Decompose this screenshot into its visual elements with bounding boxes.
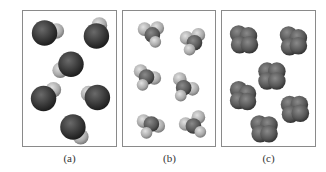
tetrahedral-molecules-illustration (123, 11, 215, 146)
panel-b (122, 10, 216, 147)
four-lobe-molecules-illustration (222, 11, 315, 146)
panel-b-label: (b) (122, 152, 217, 164)
panel-a-label: (a) (22, 152, 117, 164)
panel-c (221, 10, 316, 147)
panel-c-label: (c) (221, 152, 316, 164)
panel-a (22, 10, 117, 147)
diatomic-molecules-illustration (23, 11, 116, 146)
